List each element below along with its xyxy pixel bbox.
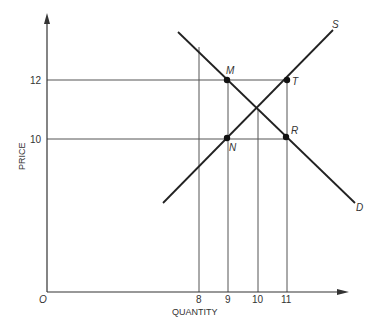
x-tick-11: 11 xyxy=(281,294,292,305)
label-supply: S xyxy=(332,19,339,30)
y-axis-arrow-icon xyxy=(44,13,50,24)
y-tick-12: 12 xyxy=(30,75,42,86)
origin-label: O xyxy=(39,294,47,305)
demand-curve xyxy=(178,32,355,203)
axes xyxy=(47,22,340,292)
reference-lines xyxy=(47,47,288,292)
point-r xyxy=(283,134,289,140)
label-demand: D xyxy=(356,202,363,213)
point-n xyxy=(224,135,230,141)
x-tick-8: 8 xyxy=(196,294,202,305)
y-axis-title: PRICE xyxy=(17,142,27,170)
x-axis-arrow-icon xyxy=(337,289,349,295)
supply-demand-diagram: M T N R S D 12 10 8 9 10 11 O QUANTITY P… xyxy=(0,0,378,327)
label-r: R xyxy=(291,125,298,136)
x-tick-9: 9 xyxy=(225,294,231,305)
label-m: M xyxy=(226,65,235,76)
x-tick-10: 10 xyxy=(252,294,264,305)
supply-curve xyxy=(163,30,333,203)
point-t xyxy=(284,77,290,83)
label-t: T xyxy=(292,76,299,87)
label-n: N xyxy=(229,142,237,153)
x-axis-title: QUANTITY xyxy=(172,307,218,317)
y-tick-10: 10 xyxy=(30,134,42,145)
point-m xyxy=(224,77,230,83)
